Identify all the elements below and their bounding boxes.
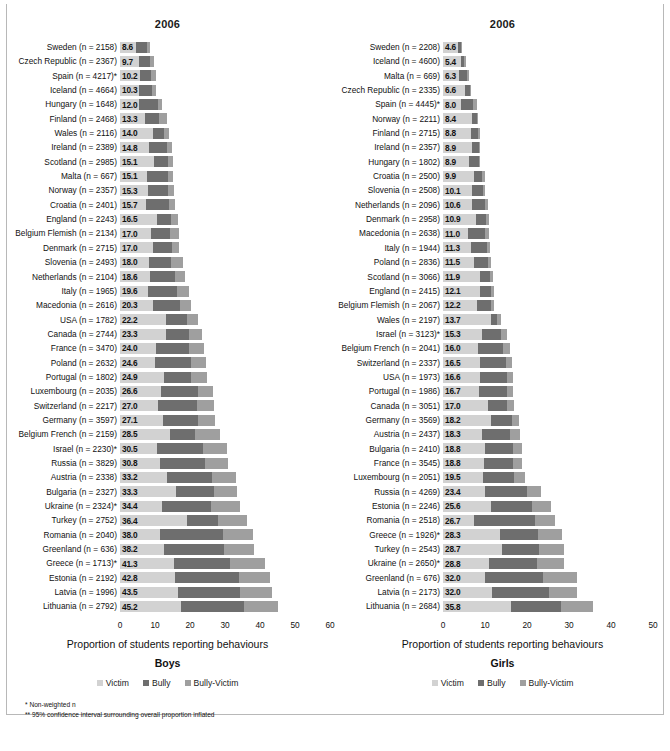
stacked-bar[interactable]: [443, 587, 577, 598]
chart-row: Malta (n = 667)15.1: [0, 169, 335, 183]
chart-row: Russia (n = 3829)30.8: [0, 456, 335, 470]
stacked-bar[interactable]: [120, 587, 272, 598]
panel-girls-rows: Sweden (n = 2208)4.6Iceland (n = 4600)5.…: [335, 40, 670, 614]
bar-segment-bully-victim: [514, 472, 525, 483]
bar-segment-bully-victim: [218, 515, 247, 526]
bar-value-label: 11.5: [445, 258, 460, 266]
chart-row: Germany (n = 3597)27.1: [0, 413, 335, 427]
legend-item: Bully-Victim: [520, 678, 574, 688]
bar-segment-bully: [166, 314, 187, 325]
chart-row: Latvia (n = 1996)43.5: [0, 585, 335, 599]
country-label: Malta (n = 669): [335, 72, 443, 80]
stacked-bar[interactable]: [120, 558, 265, 569]
stacked-bar[interactable]: [120, 515, 247, 526]
chart-row: Slovenia (n = 2493)18.0: [0, 255, 335, 269]
bar-area: 10.1: [443, 185, 670, 196]
panel-boys: 2006 Sweden (n = 2158)8.6Czech Republic …: [0, 0, 335, 751]
bar-segment-bully: [474, 257, 488, 268]
bar-area: 14.8: [120, 142, 335, 153]
stacked-bar[interactable]: [120, 601, 278, 612]
chart-row: Norway (n = 2211)8.4: [335, 112, 670, 126]
bar-value-label: 17.0: [122, 229, 137, 237]
country-label: Luxembourg (n = 2051): [335, 473, 443, 481]
bar-segment-bully-victim: [212, 472, 236, 483]
bar-value-label: 24.9: [122, 373, 137, 381]
country-label: Portugal (n = 1986): [335, 387, 443, 395]
bar-area: 8.8: [443, 128, 670, 139]
stacked-bar[interactable]: [120, 544, 254, 555]
bar-area: 38.0: [120, 529, 335, 540]
stacked-bar[interactable]: [120, 529, 253, 540]
country-label: Lithuania (n = 2792): [0, 602, 120, 610]
bar-segment-bully: [140, 70, 152, 81]
bar-segment-bully: [491, 501, 532, 512]
chart-row: Lithuania (n = 2792)45.2: [0, 599, 335, 613]
stacked-bar[interactable]: [120, 572, 270, 583]
bar-area: 23.4: [443, 486, 670, 497]
chart-row: Sweden (n = 2208)4.6: [335, 40, 670, 54]
chart-row: Ireland (n = 2357)8.9: [335, 140, 670, 154]
bar-value-label: 12.1: [445, 287, 460, 295]
chart-row: Netherlands (n = 2096)10.6: [335, 198, 670, 212]
chart-row: Italy (n = 1944)11.3: [335, 241, 670, 255]
country-label: Greece (n = 1713)*: [0, 559, 120, 567]
bar-value-label: 8.6: [122, 43, 133, 51]
stacked-bar[interactable]: [120, 501, 240, 512]
bar-value-label: 10.6: [445, 201, 460, 209]
stacked-bar[interactable]: [120, 472, 236, 483]
bar-value-label: 23.4: [445, 488, 460, 496]
bar-value-label: 28.3: [445, 531, 460, 539]
stacked-bar[interactable]: [443, 572, 577, 583]
country-label: Wales (n = 2116): [0, 129, 120, 137]
bar-area: 9.7: [120, 56, 335, 67]
bar-value-label: 24.6: [122, 359, 137, 367]
stacked-bar[interactable]: [443, 529, 562, 540]
bar-segment-bully: [155, 357, 191, 368]
bar-segment-bully: [148, 286, 176, 297]
bar-segment-bully-victim: [172, 242, 179, 253]
stacked-bar[interactable]: [443, 601, 593, 612]
stacked-bar[interactable]: [120, 486, 237, 497]
bar-value-label: 38.2: [122, 545, 137, 553]
country-label: Greenland (n = 636): [0, 545, 120, 553]
bar-value-label: 11.0: [445, 229, 460, 237]
country-label: Finland (n = 2468): [0, 115, 120, 123]
bar-area: 15.3: [443, 329, 670, 340]
bar-segment-bully-victim: [510, 429, 520, 440]
chart-row: Russia (n = 4269)23.4: [335, 485, 670, 499]
country-label: Switzerland (n = 2217): [0, 402, 120, 410]
bar-area: 34.4: [120, 501, 335, 512]
chart-row: Poland (n = 2632)24.6: [0, 356, 335, 370]
bar-value-label: 27.1: [122, 416, 137, 424]
country-label: Croatia (n = 2500): [335, 172, 443, 180]
bar-value-label: 15.1: [122, 158, 137, 166]
bar-segment-bully-victim: [513, 443, 522, 454]
bar-value-label: 34.4: [122, 502, 137, 510]
bar-value-label: 10.2: [122, 72, 137, 80]
bar-area: 25.6: [443, 501, 670, 512]
bar-segment-bully: [164, 544, 224, 555]
bar-value-label: 41.3: [122, 559, 137, 567]
bar-area: 9.9: [443, 171, 670, 182]
bar-value-label: 18.2: [445, 416, 460, 424]
bar-segment-bully-victim: [224, 544, 254, 555]
bar-value-label: 26.6: [122, 387, 137, 395]
stacked-bar[interactable]: [443, 558, 564, 569]
country-label: England (n = 2243): [0, 215, 120, 223]
bar-segment-bully-victim: [507, 400, 515, 411]
bar-area: 16.5: [120, 214, 335, 225]
bar-segment-bully-victim: [538, 529, 562, 540]
bar-area: 14.0: [120, 128, 335, 139]
country-label: Russia (n = 4269): [335, 488, 443, 496]
stacked-bar[interactable]: [443, 544, 564, 555]
bar-area: 43.5: [120, 587, 335, 598]
bar-segment-bully: [153, 242, 172, 253]
bar-segment-bully-victim: [478, 128, 480, 139]
bar-segment-bully-victim: [461, 42, 462, 53]
bar-area: 28.7: [443, 544, 670, 555]
chart-row: England (n = 2415)12.1: [335, 284, 670, 298]
bar-area: 10.9: [443, 214, 670, 225]
country-label: Spain (n = 4217)*: [0, 72, 120, 80]
bar-segment-bully: [479, 386, 507, 397]
bar-value-label: 11.3: [445, 244, 460, 252]
